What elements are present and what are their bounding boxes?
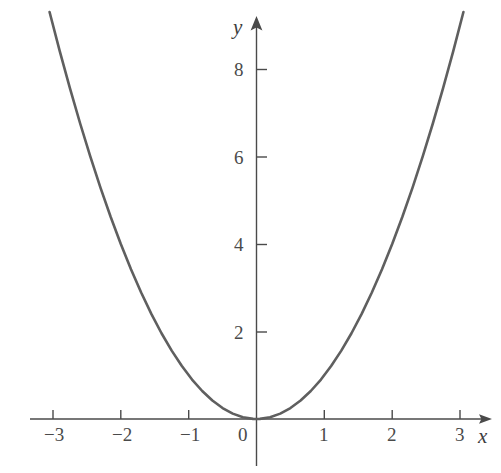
x-tick-label-1: 1 [319, 425, 329, 444]
y-tick-label-6: 6 [234, 148, 244, 167]
x-tick-label-neg2: −2 [112, 425, 132, 444]
y-axis-label: y [233, 17, 242, 38]
x-tick-label-neg3: −3 [44, 425, 64, 444]
x-tick-label-2: 2 [387, 425, 397, 444]
x-axis [30, 410, 492, 424]
chart-canvas [0, 0, 501, 473]
x-tick-label-0: 0 [238, 425, 248, 444]
parabola-chart-figure: −3 −2 −1 0 1 2 3 2 4 6 8 y x [0, 0, 501, 473]
y-tick-label-2: 2 [234, 323, 244, 342]
x-axis-label: x [478, 426, 487, 447]
y-tick-label-4: 4 [234, 235, 244, 254]
x-tick-label-neg1: −1 [180, 425, 200, 444]
x-tick-label-3: 3 [455, 425, 465, 444]
y-tick-label-8: 8 [234, 60, 244, 79]
y-axis [251, 16, 267, 466]
